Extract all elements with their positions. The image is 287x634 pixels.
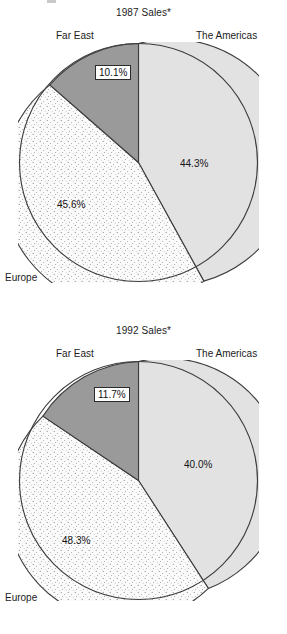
value-label-the-americas-1987: 44.3% [180,158,208,169]
pie-svg-1987 [18,42,259,283]
pie-chart-1987: 1987 Sales* Far East The Americas [0,0,287,318]
pie-svg-1992 [18,360,259,601]
category-label-the-americas-1987: The Americas [196,30,257,41]
pie-graphic-1992 [18,360,259,601]
pie-chart-1992: 1992 Sales* Far East The Americas [0,318,287,634]
category-label-europe-1992: Europe [5,592,37,603]
category-label-europe-1987: Europe [5,272,37,283]
value-label-far-east-1987: 10.1% [95,65,131,80]
value-label-europe-1992: 48.3% [62,535,90,546]
pie-graphic-1987 [18,42,259,283]
category-label-the-americas-1992: The Americas [196,348,257,359]
value-label-far-east-1992: 11.7% [94,387,130,402]
chart-title-1992: 1992 Sales* [0,325,287,336]
chart-title-1987: 1987 Sales* [0,7,287,18]
category-label-far-east-1992: Far East [56,348,94,359]
value-label-europe-1987: 45.6% [57,199,85,210]
category-label-far-east-1987: Far East [56,30,94,41]
value-label-the-americas-1992: 40.0% [184,459,212,470]
